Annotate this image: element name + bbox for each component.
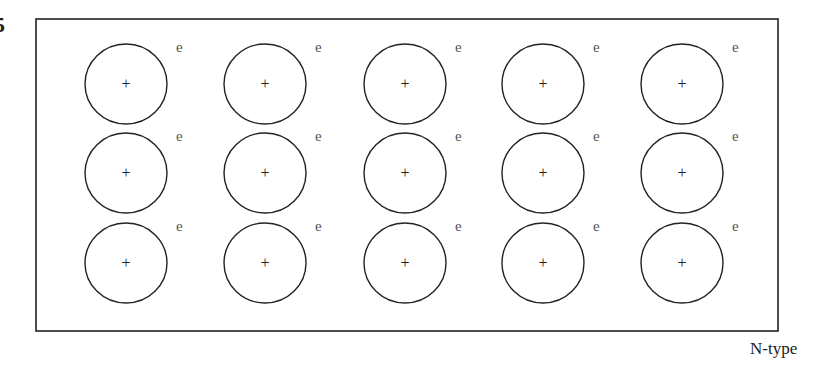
positive-charge-icon: + [260,164,269,181]
positive-charge-icon: + [538,75,547,92]
positive-charge-icon: + [538,254,547,271]
positive-charge-icon: + [400,254,409,271]
free-electron-label: e [176,39,183,55]
free-electron-label: e [455,218,462,234]
free-electron-label: e [455,39,462,55]
donor-ion: +e [502,218,600,303]
positive-charge-icon: + [121,164,130,181]
free-electron-label: e [732,218,739,234]
donor-ion: +e [641,218,739,303]
donor-ion: +e [224,39,322,124]
donor-ion: +e [641,128,739,213]
donor-ion: +e [364,128,462,213]
positive-charge-icon: + [121,75,130,92]
donor-ion: +e [641,39,739,124]
free-electron-label: e [593,128,600,144]
donor-ion: +e [85,128,183,213]
n-type-semiconductor-diagram: +e+e+e+e+e+e+e+e+e+e+e+e+e+e+e [0,0,835,371]
donor-ion: +e [502,39,600,124]
positive-charge-icon: + [400,75,409,92]
positive-charge-icon: + [677,164,686,181]
donor-ion: +e [224,218,322,303]
positive-charge-icon: + [677,75,686,92]
positive-charge-icon: + [400,164,409,181]
caption-n-type: N-type [750,339,797,359]
positive-charge-icon: + [677,254,686,271]
free-electron-label: e [732,39,739,55]
donor-ion: +e [224,128,322,213]
donor-ion: +e [364,218,462,303]
positive-charge-icon: + [121,254,130,271]
donor-ion: +e [502,128,600,213]
free-electron-label: e [176,218,183,234]
free-electron-label: e [315,39,322,55]
free-electron-label: e [732,128,739,144]
positive-charge-icon: + [538,164,547,181]
free-electron-label: e [593,39,600,55]
donor-ion: +e [364,39,462,124]
free-electron-label: e [593,218,600,234]
free-electron-label: e [455,128,462,144]
positive-charge-icon: + [260,75,269,92]
free-electron-label: e [315,128,322,144]
donor-ion: +e [85,218,183,303]
free-electron-label: e [176,128,183,144]
free-electron-label: e [315,218,322,234]
positive-charge-icon: + [260,254,269,271]
donor-ion: +e [85,39,183,124]
